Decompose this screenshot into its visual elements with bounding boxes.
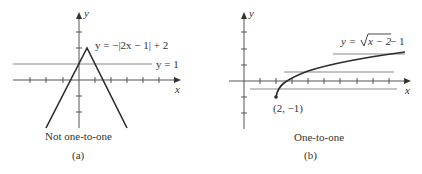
equation-label: y = −|2x − 1| + 2	[95, 39, 168, 51]
curve-abs	[46, 48, 127, 128]
y-axis-label: y	[83, 7, 89, 19]
start-point	[274, 95, 278, 99]
curve-sqrt	[276, 52, 405, 97]
x-axis-label: x	[404, 84, 410, 96]
svg-text:y =: y =	[340, 35, 356, 47]
svg-text:− 1: − 1	[390, 35, 404, 47]
y-axis-label: y	[248, 7, 254, 19]
equation-label: y = x − 2 − 1	[340, 34, 404, 47]
x-axis-label: x	[174, 83, 180, 95]
panel-b: y x y = x − 2 − 1 (2, −1) One-to-one (b)	[229, 7, 411, 162]
figure: y x y = −|2x − 1| + 2 y = 1 Not one-to-o…	[0, 0, 422, 174]
y-axis-arrow-icon	[241, 12, 247, 19]
caption: One-to-one	[294, 131, 344, 143]
caption: Not one-to-one	[45, 130, 112, 142]
hline-label: y = 1	[156, 58, 179, 70]
panel-label: (a)	[72, 149, 85, 162]
svg-text:x − 2: x − 2	[367, 35, 392, 47]
panel-a: y x y = −|2x − 1| + 2 y = 1 Not one-to-o…	[13, 7, 181, 162]
panel-label: (b)	[304, 149, 317, 162]
point-label: (2, −1)	[273, 102, 303, 115]
y-axis-arrow-icon	[76, 12, 82, 19]
